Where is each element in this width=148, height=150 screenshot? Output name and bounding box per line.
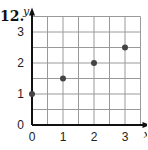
grid-lines: [32, 17, 141, 126]
y-tick-label: 2: [17, 56, 24, 70]
y-axis-label: y: [22, 5, 30, 18]
x-tick-label: 0: [29, 130, 36, 144]
tick-labels: 01230123: [17, 25, 128, 144]
scatter-plot: xy 01230123: [0, 0, 147, 150]
x-axis-label: x: [144, 128, 148, 141]
axes: xy: [22, 5, 147, 142]
y-axis-arrow-icon: [29, 8, 35, 16]
data-point: [60, 76, 66, 82]
x-tick-label: 3: [122, 130, 129, 144]
y-tick-label: 1: [17, 87, 24, 101]
data-point: [122, 45, 128, 51]
data-point: [29, 91, 35, 97]
y-tick-label: 0: [17, 118, 24, 132]
x-tick-label: 2: [91, 130, 98, 144]
y-tick-label: 3: [17, 25, 24, 39]
data-point: [91, 60, 97, 66]
x-tick-label: 1: [60, 130, 67, 144]
